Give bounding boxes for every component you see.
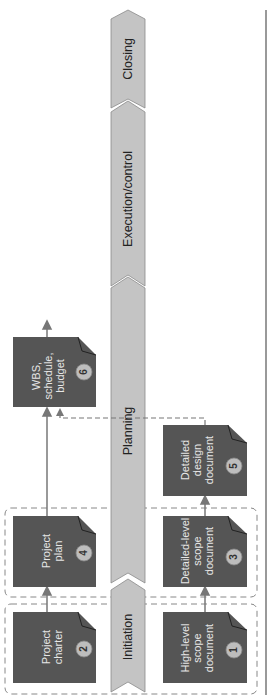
doc-project-plan-number: 4 xyxy=(77,546,91,560)
doc-project-plan-label: Project plan xyxy=(40,518,64,584)
doc-detailed-design-number: 5 xyxy=(227,459,241,473)
doc-wbs-label: WBS, schedule, budget xyxy=(30,343,66,409)
project-phases-diagram: Closing Execution/control Planning Initi… xyxy=(0,0,272,699)
doc-high-level-scope-number: 1 xyxy=(227,643,241,657)
doc-project-charter-number: 2 xyxy=(77,642,91,656)
doc-detailed-scope-number: 3 xyxy=(227,550,241,564)
doc-detailed-design-label: Detailed design document xyxy=(179,425,215,495)
doc-high-level-scope-label: High-level scope document xyxy=(179,613,215,683)
phase-label-execution: Execution/control xyxy=(121,149,135,249)
phase-label-initiation: Initiation xyxy=(121,607,135,667)
doc-detailed-scope-label: Detailed-level scope document xyxy=(179,509,215,593)
doc-project-charter-label: Project charter xyxy=(40,614,64,680)
phase-label-closing: Closing xyxy=(121,29,135,89)
doc-wbs-number: 6 xyxy=(77,365,91,379)
phase-label-planning: Planning xyxy=(121,401,135,461)
